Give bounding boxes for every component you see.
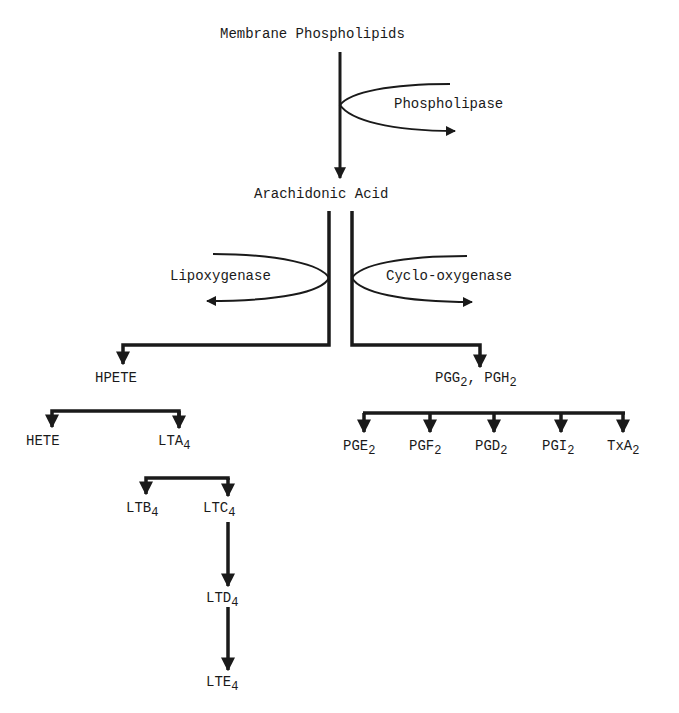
lte4-base: LTE xyxy=(206,674,231,690)
arrow-arachidonic-to-pgg xyxy=(352,211,480,367)
arrow-lta4-to-ltb4 xyxy=(146,478,228,494)
node-hpete: HPETE xyxy=(95,370,137,386)
node-ltc4: LTC4 xyxy=(203,500,235,516)
enzyme-phospholipase: Phospholipase xyxy=(394,96,503,112)
node-hete: HETE xyxy=(26,433,60,449)
pgg-pgh-separator: , xyxy=(467,370,484,386)
lta4-subscript: 4 xyxy=(183,439,190,453)
node-pge2: PGE2 xyxy=(343,438,375,454)
ltd4-subscript: 4 xyxy=(231,596,238,610)
arrow-arachidonic-to-hpete xyxy=(123,211,329,364)
node-pgi2: PGI2 xyxy=(542,438,574,454)
pgd2-base: PGD xyxy=(475,438,500,454)
node-lte4: LTE4 xyxy=(206,674,238,690)
ltb4-subscript: 4 xyxy=(151,506,158,520)
node-arachidonic-acid: Arachidonic Acid xyxy=(254,186,388,202)
pgf2-base: PGF xyxy=(409,438,434,454)
pgi2-base: PGI xyxy=(542,438,567,454)
enzyme-cyclooxygenase: Cyclo-oxygenase xyxy=(386,268,512,284)
ltc4-base: LTC xyxy=(203,500,228,516)
ltc4-subscript: 4 xyxy=(228,506,235,520)
node-txa2: TxA2 xyxy=(607,438,639,454)
lte4-subscript: 4 xyxy=(231,680,238,694)
node-ltd4: LTD4 xyxy=(206,590,238,606)
arrow-hpete-to-hete xyxy=(52,411,179,427)
txa2-subscript: 2 xyxy=(632,444,639,458)
ltb4-base: LTB xyxy=(126,500,151,516)
pgf2-subscript: 2 xyxy=(434,444,441,458)
pge2-subscript: 2 xyxy=(368,444,375,458)
pgh-base: PGH xyxy=(484,370,509,386)
pgh-subscript: 2 xyxy=(509,376,516,390)
node-pgd2: PGD2 xyxy=(475,438,507,454)
node-pgg2-pgh2: PGG2, PGH2 xyxy=(435,370,517,386)
pgd2-subscript: 2 xyxy=(500,444,507,458)
txa2-base: TxA xyxy=(607,438,632,454)
pge2-base: PGE xyxy=(343,438,368,454)
node-lta4: LTA4 xyxy=(158,433,190,449)
pgi2-subscript: 2 xyxy=(567,444,574,458)
pathway-diagram xyxy=(0,0,679,713)
lta4-base: LTA xyxy=(158,433,183,449)
enzyme-lipoxygenase: Lipoxygenase xyxy=(170,268,271,284)
pgg-base: PGG xyxy=(435,370,460,386)
ltd4-base: LTD xyxy=(206,590,231,606)
node-membrane-phospholipids: Membrane Phospholipids xyxy=(220,26,405,42)
node-pgf2: PGF2 xyxy=(409,438,441,454)
node-ltb4: LTB4 xyxy=(126,500,158,516)
